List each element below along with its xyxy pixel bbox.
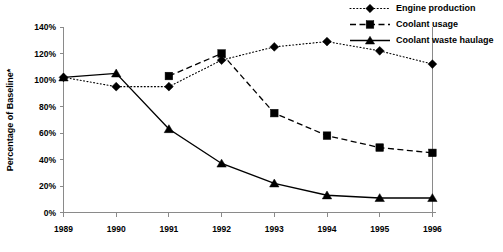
legend-label: Engine production [396,3,476,13]
legend-label: Coolant waste haulage [396,35,494,45]
y-tick-label: 120% [34,49,56,59]
y-tick-label: 80% [39,102,56,112]
x-tick-label: 1996 [423,224,442,234]
x-tick-label: 1994 [318,224,337,234]
diamond-marker-icon [112,82,121,91]
triangle-marker-icon [270,179,279,187]
diamond-marker-icon [165,82,174,91]
y-tick-label: 40% [39,155,56,165]
series-coolant-usage [165,50,436,157]
series-line [169,54,433,153]
y-tick-label: 20% [39,181,56,191]
y-tick-label: 140% [34,22,56,32]
square-marker-icon [366,21,374,29]
x-tick-label: 1989 [54,224,73,234]
square-marker-icon [323,132,331,140]
square-marker-icon [165,72,173,80]
square-marker-icon [429,149,437,157]
y-tick-label: 100% [34,75,56,85]
square-marker-icon [218,50,226,58]
x-tick-label: 1995 [370,224,389,234]
x-tick-label: 1990 [107,224,126,234]
x-axis-ticks: 1989 1990 1991 1992 1993 1994 1995 1996 [54,224,442,234]
legend-label: Coolant usage [396,19,458,29]
diamond-marker-icon [270,42,279,51]
square-marker-icon [376,144,384,152]
legend-item-coolant-waste-haulage[interactable]: Coolant waste haulage [350,35,494,45]
x-tick-label: 1991 [159,224,178,234]
chart-container: Percentage of Baseline* 140% 120% 100% 8… [0,0,503,252]
series-line [64,73,433,198]
legend-item-engine-production[interactable]: Engine production [350,3,476,13]
diamond-marker-icon [366,4,374,12]
triangle-marker-icon [217,159,226,167]
diamond-marker-icon [428,60,437,69]
y-axis-ticks: 140% 120% 100% 80% 60% 40% 20% 0% [34,22,56,218]
square-marker-icon [271,109,279,117]
y-axis-title: Percentage of Baseline* [5,68,15,171]
legend: Engine production Coolant usage Coolant … [350,3,494,45]
y-tick-label: 0% [44,208,57,218]
x-axis [64,213,437,218]
y-tick-label: 60% [39,128,56,138]
diamond-marker-icon [323,37,332,46]
x-tick-label: 1993 [265,224,284,234]
series-line [64,42,433,87]
series-layer [59,37,437,201]
line-chart: Percentage of Baseline* 140% 120% 100% 8… [0,0,503,252]
diamond-marker-icon [375,46,384,55]
y-axis [60,27,64,213]
legend-item-coolant-usage[interactable]: Coolant usage [350,19,458,29]
x-tick-label: 1992 [212,224,231,234]
